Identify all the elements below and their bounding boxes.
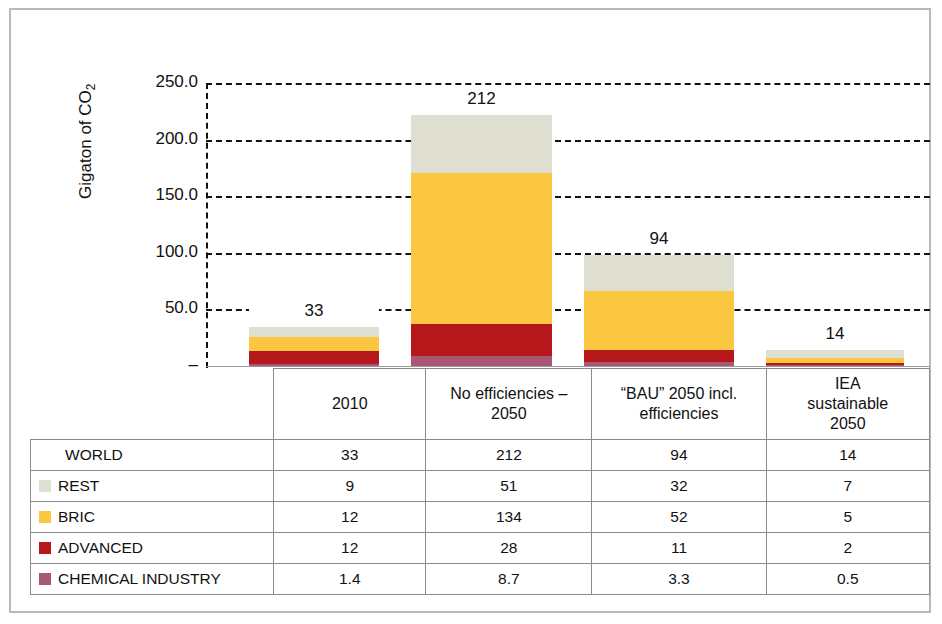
bar-segment-bric[interactable] <box>411 173 552 325</box>
bar-segment-advanced[interactable] <box>249 351 379 365</box>
table-row-label: REST <box>31 471 274 502</box>
y-tick-label: 250.0 <box>120 72 198 92</box>
bar-segment-rest[interactable] <box>766 350 904 358</box>
table-header-cell: No efficiencies –2050 <box>426 369 592 440</box>
bar-segment-bric[interactable] <box>584 291 734 350</box>
table-row[interactable]: REST951327 <box>31 471 930 502</box>
table-cell: 94 <box>592 440 766 471</box>
table-cell: 1.4 <box>274 564 426 595</box>
table-row-label-text: ADVANCED <box>58 539 143 557</box>
bar-segment-rest[interactable] <box>584 255 734 291</box>
table-header-line: 2050 <box>830 415 866 432</box>
table-header-line: 2050 <box>491 405 527 422</box>
stacked-bar[interactable] <box>411 115 552 366</box>
table-header-line: efficiencies <box>640 405 719 422</box>
bar-value-label: 94 <box>584 229 734 249</box>
bar-column[interactable]: 212 <box>411 83 552 366</box>
table-header-row: 2010No efficiencies –2050“BAU” 2050 incl… <box>31 369 930 440</box>
bar-segment-advanced[interactable] <box>411 324 552 356</box>
table-header-cell: IEAsustainable2050 <box>766 369 929 440</box>
table-cell: 0.5 <box>766 564 929 595</box>
x-axis-baseline <box>206 366 930 367</box>
bar-value-label: 33 <box>249 301 379 321</box>
table-header-cell: “BAU” 2050 incl.efficiencies <box>592 369 766 440</box>
bar-segment-rest[interactable] <box>249 327 379 337</box>
bar-segment-chemical-industry[interactable] <box>411 356 552 366</box>
data-table: 2010No efficiencies –2050“BAU” 2050 incl… <box>30 368 930 595</box>
table-row-label-text: CHEMICAL INDUSTRY <box>58 570 221 588</box>
y-axis-title-text: Gigaton of CO2 <box>76 84 95 199</box>
table-cell: 212 <box>426 440 592 471</box>
table-row[interactable]: CHEMICAL INDUSTRY1.48.73.30.5 <box>31 564 930 595</box>
table-row[interactable]: ADVANCED1228112 <box>31 533 930 564</box>
table-cell: 28 <box>426 533 592 564</box>
table-header-line: 2010 <box>332 395 368 412</box>
table-cell: 3.3 <box>592 564 766 595</box>
table-cell: 52 <box>592 502 766 533</box>
bar-segment-chemical-industry[interactable] <box>249 364 379 366</box>
table-cell: 12 <box>274 502 426 533</box>
table-row-label-text: REST <box>58 477 99 495</box>
table-header-line: No efficiencies – <box>450 385 567 402</box>
table-header-corner <box>31 369 274 440</box>
table-row[interactable]: WORLD332129414 <box>31 440 930 471</box>
table-cell: 51 <box>426 471 592 502</box>
y-tick-label: 200.0 <box>120 129 198 149</box>
bar-column[interactable]: 14 <box>766 83 904 366</box>
table-cell: 32 <box>592 471 766 502</box>
table-header-line: sustainable <box>807 395 888 412</box>
table-row-label-text: BRIC <box>58 508 95 526</box>
table-cell: 12 <box>274 533 426 564</box>
table-cell: 14 <box>766 440 929 471</box>
stacked-bar[interactable] <box>766 350 904 366</box>
data-table-body: 2010No efficiencies –2050“BAU” 2050 incl… <box>31 369 930 595</box>
table-row-label: CHEMICAL INDUSTRY <box>31 564 274 595</box>
table-header-cell: 2010 <box>274 369 426 440</box>
y-tick-label: 50.0 <box>120 298 198 318</box>
plot-area: 332129414 <box>206 83 930 366</box>
table-row-label: WORLD <box>31 440 274 471</box>
y-tick-label: 100.0 <box>120 242 198 262</box>
table-cell: 2 <box>766 533 929 564</box>
stacked-bar[interactable] <box>584 255 734 366</box>
table-row[interactable]: BRIC12134525 <box>31 502 930 533</box>
bar-segment-advanced[interactable] <box>584 350 734 362</box>
bar-column[interactable]: 94 <box>584 83 734 366</box>
legend-swatch-icon <box>39 542 51 554</box>
bar-column[interactable]: 33 <box>249 83 379 366</box>
table-row-label-text: WORLD <box>65 446 123 464</box>
table-cell: 134 <box>426 502 592 533</box>
table-cell: 11 <box>592 533 766 564</box>
bar-segment-chemical-industry[interactable] <box>584 362 734 366</box>
table-cell: 7 <box>766 471 929 502</box>
table-cell: 5 <box>766 502 929 533</box>
legend-swatch-icon <box>39 511 51 523</box>
bar-value-label: 212 <box>411 89 552 109</box>
legend-swatch-icon <box>39 573 51 585</box>
table-row-label: ADVANCED <box>31 533 274 564</box>
bar-segment-rest[interactable] <box>411 115 552 173</box>
bar-segment-bric[interactable] <box>249 337 379 351</box>
table-header-line: IEA <box>835 375 861 392</box>
table-cell: 33 <box>274 440 426 471</box>
table-row-label: BRIC <box>31 502 274 533</box>
bar-segment-chemical-industry[interactable] <box>766 365 904 366</box>
bar-value-label: 14 <box>766 324 904 344</box>
stacked-bar[interactable] <box>249 327 379 366</box>
table-cell: 8.7 <box>426 564 592 595</box>
table-header-line: “BAU” 2050 incl. <box>621 385 738 402</box>
legend-swatch-icon <box>39 480 51 492</box>
y-axis-title: Gigaton of CO2 <box>76 41 98 241</box>
y-axis-tick-labels: 250.0200.0150.0100.050.0– <box>118 83 198 368</box>
figure-root: Gigaton of CO2 250.0200.0150.0100.050.0–… <box>0 0 942 624</box>
table-cell: 9 <box>274 471 426 502</box>
y-tick-label: 150.0 <box>120 185 198 205</box>
